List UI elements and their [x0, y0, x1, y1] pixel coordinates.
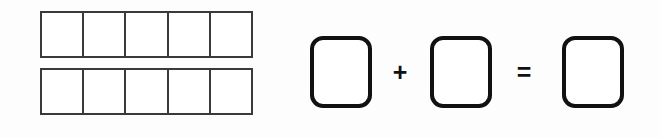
- equals-operator-icon: =: [511, 57, 537, 87]
- ten-frame: [40, 11, 253, 115]
- sum-input-box[interactable]: [562, 36, 624, 108]
- addend-1-input-box[interactable]: [310, 36, 372, 108]
- ten-frame-cell[interactable]: [126, 13, 168, 56]
- plus-operator-icon: +: [387, 57, 413, 87]
- ten-frame-cell[interactable]: [211, 13, 251, 56]
- worksheet-canvas: + =: [0, 0, 660, 138]
- ten-frame-cell[interactable]: [42, 13, 84, 56]
- ten-frame-cell[interactable]: [211, 70, 251, 113]
- ten-frame-cell[interactable]: [84, 70, 126, 113]
- ten-frame-cell[interactable]: [42, 70, 84, 113]
- ten-frame-cell[interactable]: [169, 13, 211, 56]
- ten-frame-cell[interactable]: [169, 70, 211, 113]
- addition-equation: + =: [300, 30, 640, 116]
- ten-frame-row-bottom: [40, 68, 253, 115]
- ten-frame-row-top: [40, 11, 253, 58]
- addend-2-input-box[interactable]: [430, 36, 492, 108]
- ten-frame-cell[interactable]: [84, 13, 126, 56]
- ten-frame-cell[interactable]: [126, 70, 168, 113]
